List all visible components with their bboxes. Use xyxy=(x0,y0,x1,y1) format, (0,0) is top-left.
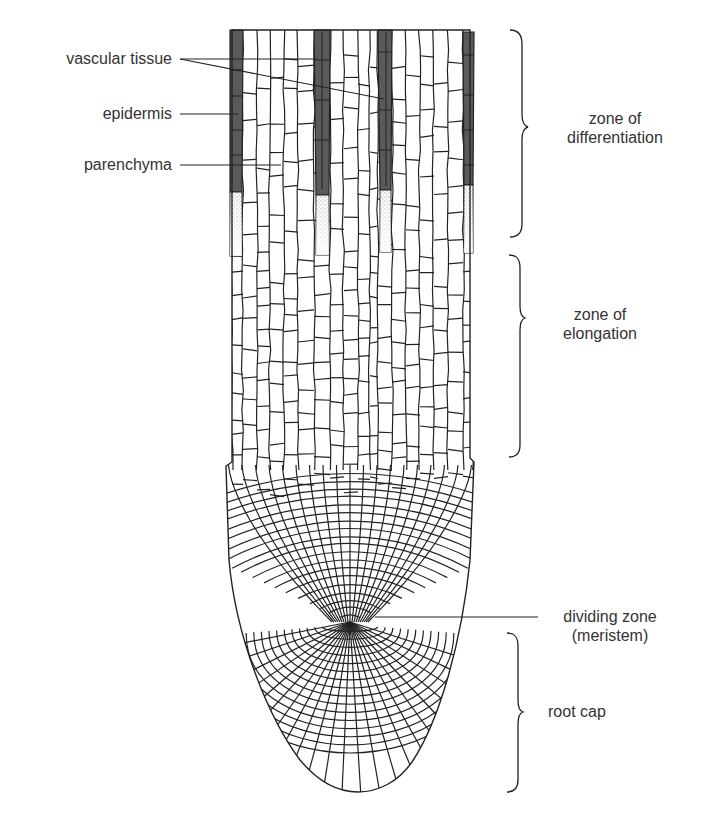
label-zone-of-elongation: zone of elongation xyxy=(540,305,660,343)
zone-braces xyxy=(507,30,528,792)
label-zone-of-elongation-line2: elongation xyxy=(540,324,660,343)
label-dividing-zone-line1: dividing zone xyxy=(545,607,675,626)
label-dividing-zone-line2: (meristem) xyxy=(545,626,675,645)
brace-root-cap xyxy=(507,633,523,792)
leader-vascular-tissue-b xyxy=(180,59,384,99)
label-vascular-tissue: vascular tissue xyxy=(20,49,172,68)
label-root-cap: root cap xyxy=(548,702,606,721)
label-zone-of-elongation-line1: zone of xyxy=(540,305,660,324)
brace-elongation xyxy=(509,255,525,457)
cell-network xyxy=(144,30,555,812)
brace-differentiation xyxy=(510,30,528,237)
label-zone-of-differentiation: zone of differentiation xyxy=(545,109,685,147)
vascular-strands xyxy=(230,30,474,256)
label-epidermis: epidermis xyxy=(20,104,172,123)
label-dividing-zone: dividing zone (meristem) xyxy=(545,607,675,645)
label-zone-of-differentiation-line1: zone of xyxy=(545,109,685,128)
label-zone-of-differentiation-line2: differentiation xyxy=(545,128,685,147)
label-parenchyma: parenchyma xyxy=(20,155,172,174)
root-tip-diagram: vascular tissue epidermis parenchyma zon… xyxy=(0,0,701,828)
